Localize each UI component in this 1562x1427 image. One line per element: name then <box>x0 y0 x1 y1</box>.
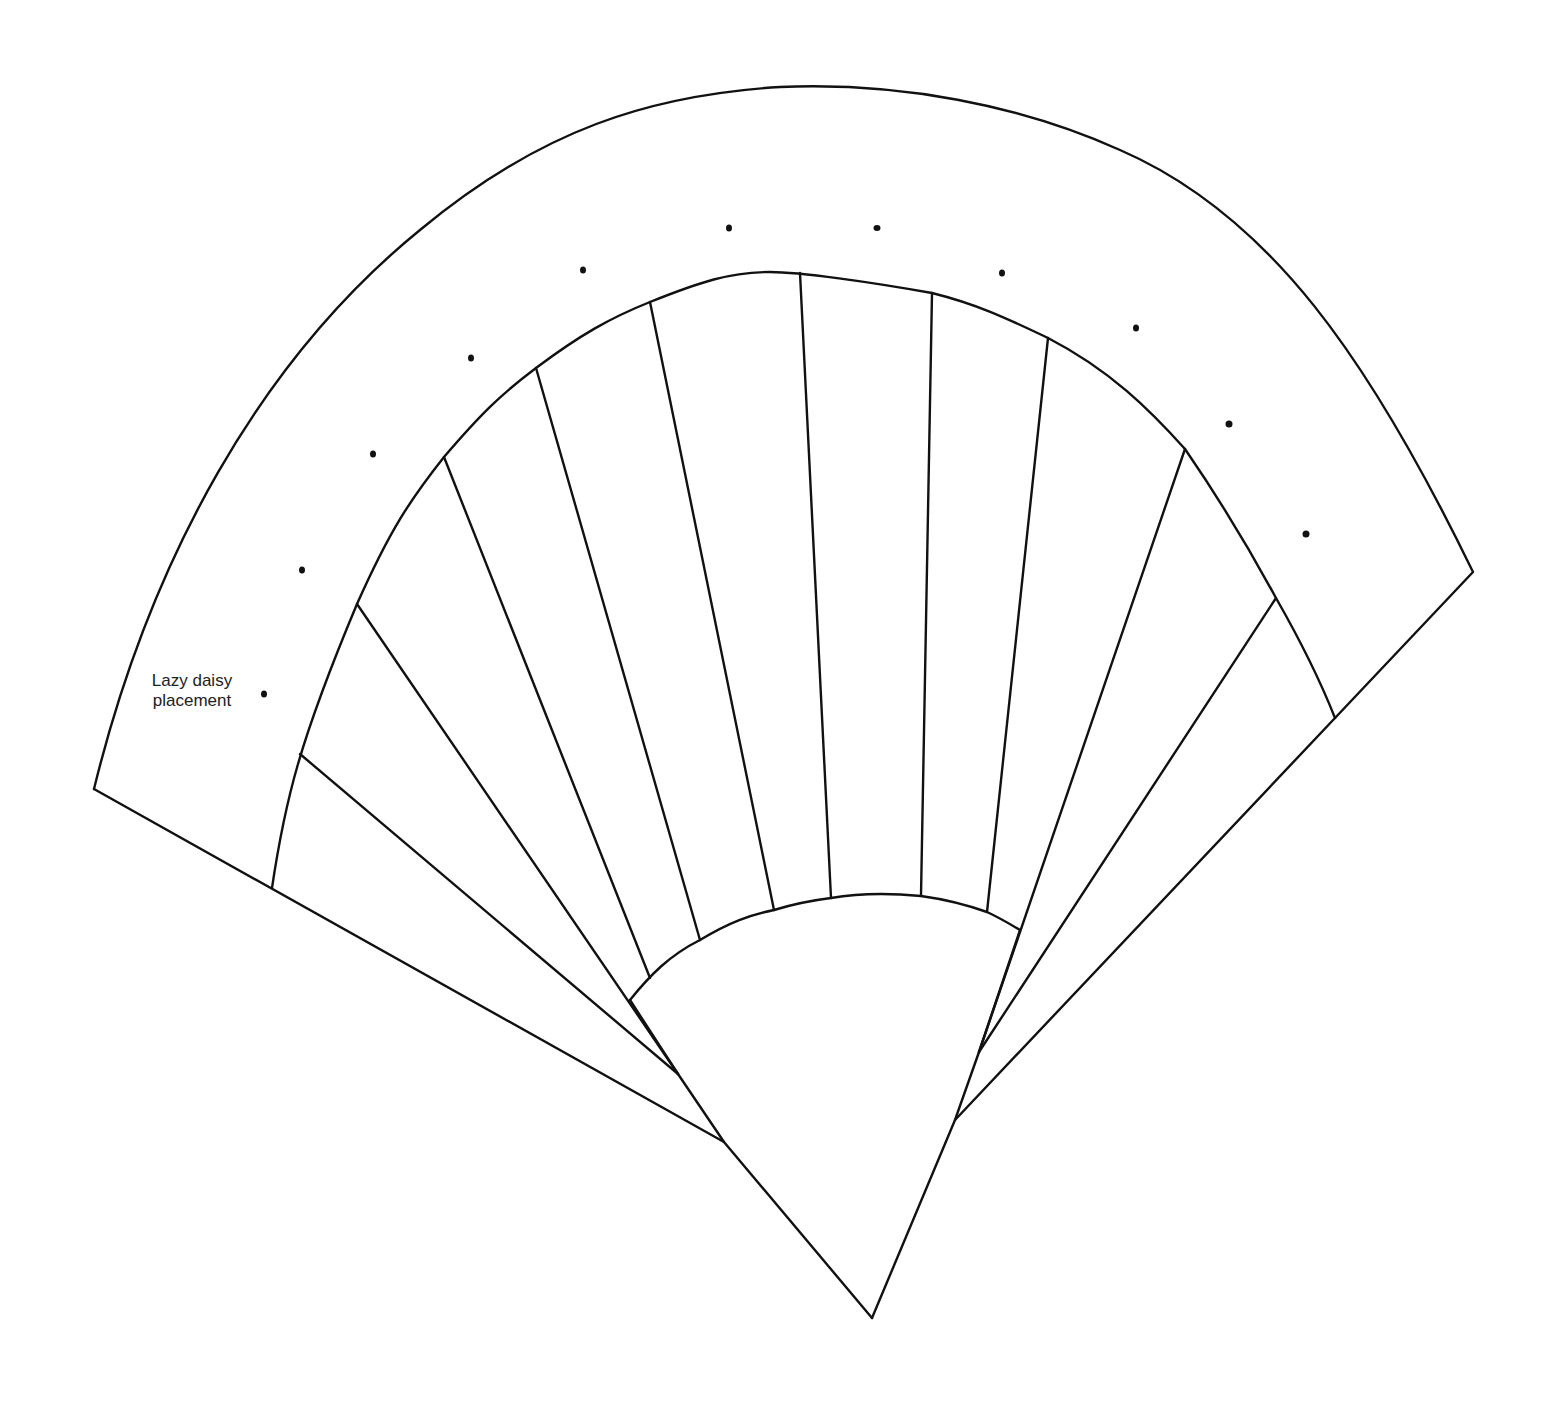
blade-right-2 <box>979 449 1185 1052</box>
label-line-2: placement <box>128 691 256 711</box>
stitch-dot <box>999 270 1005 277</box>
center-cone-left-edge <box>630 1000 872 1318</box>
stitch-dot <box>370 451 376 458</box>
stitch-dots <box>261 225 1310 698</box>
stitch-dot <box>1226 421 1233 428</box>
blade-line-2 <box>536 368 700 940</box>
lazy-daisy-label: Lazy daisy placement <box>128 671 256 711</box>
blade-left-2 <box>357 604 678 1074</box>
blade-left-outer <box>300 754 678 1074</box>
center-dome <box>630 894 1020 1000</box>
blade-line-3 <box>650 302 774 910</box>
outer-band-left-edge <box>94 789 724 1142</box>
stitch-dot <box>1133 325 1139 332</box>
stitch-dot <box>299 567 305 574</box>
blade-line-4 <box>800 273 831 898</box>
stitch-dot <box>580 267 586 274</box>
blade-line-5 <box>921 293 932 896</box>
blade-right-outer <box>979 598 1276 1052</box>
stitch-dot <box>468 355 474 362</box>
blade-line-6 <box>987 338 1048 912</box>
stitch-dot <box>874 225 881 231</box>
fan-quilt-pattern <box>0 0 1562 1427</box>
stitch-dot <box>1303 531 1310 538</box>
outer-band-outline <box>94 86 1473 1120</box>
label-line-1: Lazy daisy <box>128 671 256 691</box>
blade-line-1 <box>444 457 650 978</box>
stitch-dot <box>726 225 732 232</box>
center-cone-right-edge <box>872 930 1020 1318</box>
stitch-dot <box>261 691 267 698</box>
